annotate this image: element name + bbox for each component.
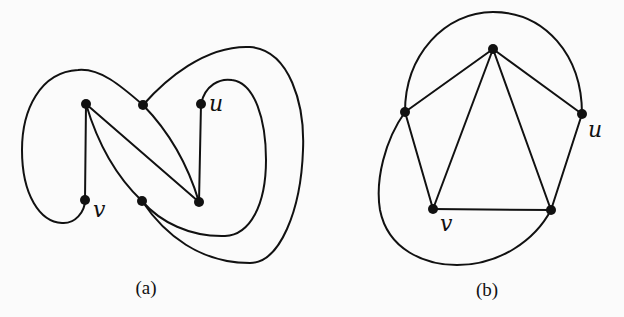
vertex-a-v bbox=[80, 195, 90, 205]
edge-a-A-v bbox=[85, 104, 86, 200]
vertex-b-T bbox=[488, 44, 498, 54]
vertex-a-A bbox=[81, 99, 91, 109]
edge-b-L-u bbox=[405, 12, 582, 114]
vertex-a-u bbox=[196, 99, 206, 109]
vertex-label-b-u: u bbox=[588, 117, 602, 142]
edge-b-T-v bbox=[433, 49, 493, 209]
caption-b: (b) bbox=[476, 279, 498, 301]
vertex-a-B bbox=[138, 100, 148, 110]
edge-a-B-D bbox=[143, 105, 199, 202]
panel-a: u v (a) bbox=[22, 47, 303, 299]
vertex-label-a-v: v bbox=[93, 197, 106, 222]
graph-figure: u v (a) u v (b) bbox=[0, 0, 624, 317]
caption-a: (a) bbox=[135, 277, 156, 299]
edge-b-v-R bbox=[433, 209, 551, 210]
edge-a-A-D bbox=[86, 104, 199, 202]
vertex-label-b-v: v bbox=[440, 211, 453, 236]
edge-b-T-R bbox=[493, 49, 551, 210]
vertex-a-C bbox=[137, 196, 147, 206]
panel-b: u v (b) bbox=[379, 12, 602, 301]
edge-a-u-D bbox=[199, 104, 201, 202]
edge-a-A-C bbox=[86, 104, 142, 201]
vertex-a-D bbox=[194, 197, 204, 207]
vertex-b-L bbox=[400, 107, 410, 117]
edge-b-u-R bbox=[551, 114, 582, 210]
vertex-b-v bbox=[428, 204, 438, 214]
edge-b-L-v bbox=[405, 112, 433, 209]
edge-b-L-R bbox=[379, 112, 551, 265]
vertex-b-R bbox=[546, 205, 556, 215]
vertex-b-u bbox=[577, 109, 587, 119]
vertex-label-a-u: u bbox=[209, 91, 223, 116]
